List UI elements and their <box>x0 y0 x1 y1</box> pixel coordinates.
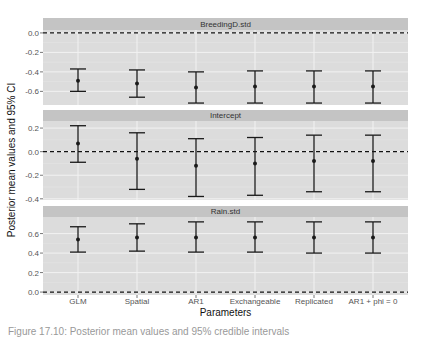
facet-strip-label: Rain.std <box>211 207 240 216</box>
facet-intercept: Intercept0.20.0-0.2-0.4 <box>25 110 408 204</box>
faceted-errorbar-chart: BreedingD.std0.0-0.2-0.4-0.6Intercept0.2… <box>0 0 423 320</box>
mean-point <box>312 159 316 163</box>
mean-point <box>312 84 316 88</box>
x-tick-label: GLM <box>69 297 87 306</box>
y-tick-label: -0.4 <box>25 195 39 204</box>
mean-point <box>76 237 80 241</box>
mean-point <box>371 84 375 88</box>
panel-background <box>43 217 408 295</box>
x-tick-label: Spatial <box>125 297 150 306</box>
panel-background <box>43 30 408 105</box>
y-axis-title: Posterior mean values and 95% CI <box>6 83 17 238</box>
mean-point <box>312 235 316 239</box>
mean-point <box>253 161 257 165</box>
mean-point <box>253 235 257 239</box>
mean-point <box>194 164 198 168</box>
y-tick-label: 0.4 <box>28 249 40 258</box>
mean-point <box>135 82 139 86</box>
x-tick-label: AR1 + phi = 0 <box>349 297 398 306</box>
mean-point <box>194 85 198 89</box>
mean-point <box>135 157 139 161</box>
x-tick-label: Replicated <box>295 297 333 306</box>
facet-strip-label: BreedingD.std <box>200 20 251 29</box>
x-axis-title: Parameters <box>200 307 252 318</box>
facet-breedingd-std: BreedingD.std0.0-0.2-0.4-0.6 <box>25 18 408 105</box>
y-tick-label: -0.2 <box>25 48 39 57</box>
mean-point <box>371 235 375 239</box>
x-tick-label: AR1 <box>188 297 204 306</box>
y-tick-label: 0.0 <box>28 29 40 38</box>
mean-point <box>371 159 375 163</box>
mean-point <box>253 84 257 88</box>
facet-strip-label: Intercept <box>210 111 242 120</box>
y-tick-label: 0.0 <box>28 288 40 297</box>
mean-point <box>194 235 198 239</box>
panel-background <box>43 121 408 200</box>
x-tick-label: Exchangeable <box>230 297 281 306</box>
figure-caption: Figure 17.10: Posterior mean values and … <box>8 326 289 337</box>
y-tick-label: 0.2 <box>28 124 40 133</box>
mean-point <box>76 141 80 145</box>
y-tick-label: -0.4 <box>25 68 39 77</box>
mean-point <box>135 235 139 239</box>
y-tick-label: 0.6 <box>28 230 40 239</box>
y-tick-label: -0.6 <box>25 87 39 96</box>
y-tick-label: 0.0 <box>28 148 40 157</box>
facet-rain-std: Rain.std0.60.40.20.0 <box>28 206 408 297</box>
y-tick-label: 0.2 <box>28 269 40 278</box>
mean-point <box>76 79 80 83</box>
y-tick-label: -0.2 <box>25 171 39 180</box>
